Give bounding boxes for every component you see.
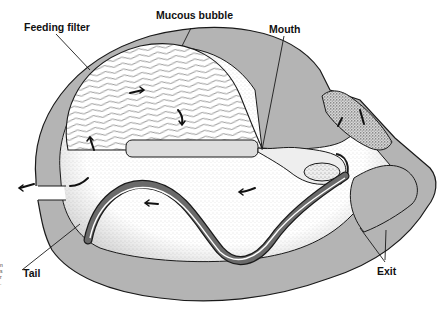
label-mucous-bubble: Mucous bubble [156,9,233,21]
label-feeding-filter: Feeding filter [24,21,90,33]
left-outlet [20,186,66,200]
leader-feeding-filter [56,34,90,70]
label-mouth: Mouth [269,23,301,35]
edge-char: . [0,280,3,286]
larvacean-house-diagram [0,0,439,312]
arrow-icon [146,203,158,204]
label-exit: Exit [377,265,396,277]
cropped-edge-text: n s r . [0,262,3,286]
filter-bar [126,140,258,157]
label-tail: Tail [23,267,40,279]
